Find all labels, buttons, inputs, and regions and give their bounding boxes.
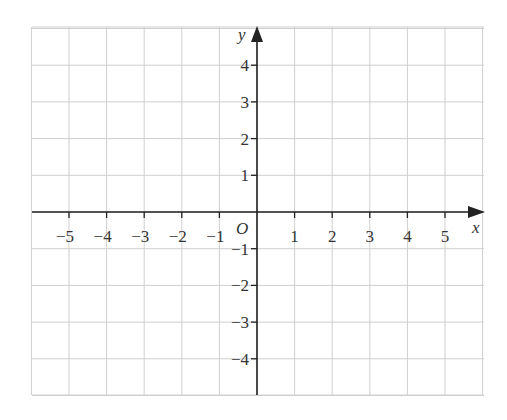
coordinate-plane: −5−4−3−2−112345−4−3−2−11234 x y O: [0, 0, 507, 420]
y-tick-label: −4: [231, 350, 250, 369]
axes: [32, 26, 485, 395]
x-tick-label: −2: [169, 227, 187, 246]
x-tick-label: −3: [131, 227, 149, 246]
y-axis-label: y: [236, 25, 246, 44]
y-tick-label: −1: [231, 240, 249, 259]
x-axis-label: x: [471, 218, 480, 237]
y-tick-label: 3: [241, 93, 250, 112]
x-tick-label: 5: [441, 227, 450, 246]
x-tick-label: 1: [290, 227, 299, 246]
x-tick-label: −4: [94, 227, 113, 246]
x-tick-label: −1: [206, 227, 224, 246]
x-tick-label: −5: [56, 227, 74, 246]
x-tick-label: 4: [403, 227, 412, 246]
y-tick-label: 1: [241, 166, 250, 185]
y-tick-label: −3: [231, 313, 249, 332]
y-tick-label: 2: [241, 130, 250, 149]
y-tick-label: 4: [241, 56, 250, 75]
x-tick-label: 2: [328, 227, 337, 246]
origin-label: O: [236, 219, 248, 238]
x-tick-label: 3: [366, 227, 375, 246]
y-tick-label: −2: [231, 276, 249, 295]
